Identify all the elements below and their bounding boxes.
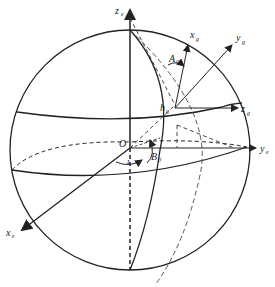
label-longitude: L [126, 158, 131, 166]
label-ye: y e [259, 143, 269, 155]
svg-text:h: h [160, 102, 165, 113]
projection-to-ye [177, 125, 234, 148]
label-azimuth: A 0 [168, 53, 179, 65]
xe-axis [22, 148, 130, 230]
svg-text:0: 0 [158, 157, 161, 163]
meridian-dashed [130, 30, 202, 285]
svg-text:O: O [119, 138, 126, 149]
svg-text:L: L [126, 158, 131, 166]
svg-text:g: g [196, 36, 199, 42]
svg-text:x: x [5, 227, 11, 238]
svg-text:z: z [240, 103, 245, 114]
label-xg: x g [189, 29, 199, 42]
svg-text:e: e [12, 233, 15, 239]
svg-text:B: B [151, 151, 157, 162]
svg-text:x: x [189, 29, 195, 40]
svg-text:y: y [235, 32, 241, 43]
svg-text:y: y [259, 143, 265, 154]
label-yg: y g [235, 32, 245, 45]
svg-text:A: A [168, 53, 176, 64]
meridian-front [130, 30, 164, 270]
svg-text:g: g [247, 110, 250, 116]
label-ze: z e [114, 5, 124, 17]
latitude-parallel-back [222, 103, 242, 107]
label-xe: x e [5, 227, 15, 239]
projection-to-equator [130, 138, 160, 148]
svg-text:e: e [266, 149, 269, 155]
svg-text:0: 0 [176, 59, 179, 65]
svg-text:z: z [114, 5, 119, 16]
label-height: h 0 [160, 102, 169, 115]
svg-text:e: e [121, 11, 124, 17]
earth-coordinate-diagram: z e y e x e O x g y g z g A 0 h 0 B 0 L [0, 0, 275, 287]
label-origin: O [119, 138, 126, 149]
svg-text:g: g [242, 39, 245, 45]
svg-text:0: 0 [166, 109, 169, 115]
